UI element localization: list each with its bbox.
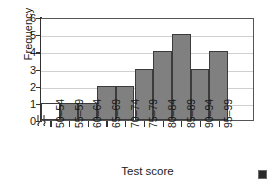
- y-tick-label: 1: [24, 99, 36, 110]
- x-tick-label: 70–74: [130, 88, 141, 128]
- x-tick-mark: [219, 121, 220, 127]
- x-tick-mark: [88, 121, 89, 127]
- x-tick-label: 95–99: [223, 88, 234, 128]
- y-tick-mark: [36, 104, 41, 105]
- x-tick-label: 50–54: [55, 88, 66, 128]
- x-tick-mark: [163, 121, 164, 127]
- x-tick-mark: [200, 121, 201, 127]
- histogram-chart: Frequency 0123456 50–5455–5960–6465–6970…: [0, 0, 280, 187]
- y-tick-mark: [36, 70, 41, 71]
- corner-square-marker: [258, 170, 267, 179]
- y-tick-mark: [36, 52, 41, 53]
- y-tick-label: 4: [24, 47, 36, 58]
- y-tick-label: 2: [24, 82, 36, 93]
- x-axis-title: Test score: [41, 165, 254, 178]
- x-tick-label: 60–64: [92, 88, 103, 128]
- x-tick-label: 85–89: [186, 88, 197, 128]
- y-tick-label: 6: [24, 13, 36, 24]
- y-tick-mark: [36, 121, 41, 122]
- x-tick-mark: [125, 121, 126, 127]
- x-tick-mark: [181, 121, 182, 127]
- x-tick-mark: [144, 121, 145, 127]
- x-tick-mark: [69, 121, 70, 127]
- y-tick-label: 5: [24, 30, 36, 41]
- x-tick-mark: [50, 121, 51, 127]
- x-tick-label: 65–69: [111, 88, 122, 128]
- x-tick-label: 55–59: [74, 88, 85, 128]
- y-tick-mark: [36, 87, 41, 88]
- y-axis-tick-labels: 0123456: [22, 0, 36, 187]
- y-tick-mark: [36, 18, 41, 19]
- x-tick-mark: [106, 121, 107, 127]
- x-tick-label: 90–94: [204, 88, 215, 128]
- x-tick-label: 80–84: [167, 88, 178, 128]
- y-tick-label: 3: [24, 65, 36, 76]
- x-tick-label: 75–79: [148, 88, 159, 128]
- y-tick-label: 0: [24, 116, 36, 127]
- y-tick-mark: [36, 35, 41, 36]
